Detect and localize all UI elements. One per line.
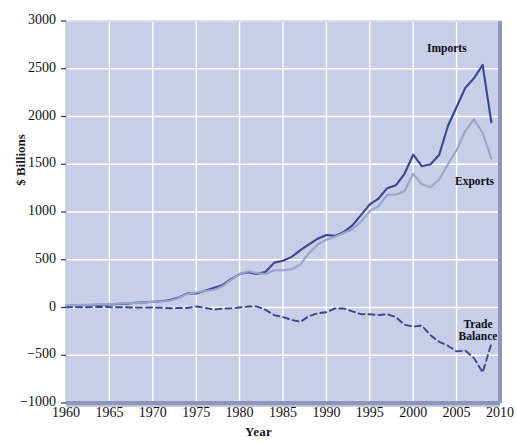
x-axis-tick-label: 1995: [348, 405, 392, 421]
x-axis-tick-label: 1970: [131, 405, 175, 421]
x-axis-tick-label: 1965: [87, 405, 131, 421]
series-label-imports: Imports: [427, 42, 467, 54]
x-axis-tick-row: 1960196519701975198019851990199520002005…: [0, 0, 517, 444]
x-axis-tick-label: 2010: [478, 405, 517, 421]
series-label-trade-balance-line2: Balance: [459, 330, 498, 342]
x-axis-tick-label: 2000: [391, 405, 435, 421]
series-label-trade-balance-line1: Trade: [463, 318, 492, 330]
y-axis-label-wrapper: $ Billions: [11, 115, 31, 205]
x-axis-tick-label: 1985: [261, 405, 305, 421]
x-axis-tick-label: 1990: [304, 405, 348, 421]
x-axis-tick-label: 2005: [435, 405, 479, 421]
series-label-exports: Exports: [455, 175, 494, 187]
x-axis-label: Year: [0, 424, 517, 440]
y-axis-label: $ Billions: [13, 134, 28, 186]
x-axis-tick-label: 1980: [218, 405, 262, 421]
x-axis-tick-label: 1960: [44, 405, 88, 421]
trade-chart-figure: 300025002000150010005000−500−1000 196019…: [0, 0, 517, 444]
series-label-trade-balance: Trade Balance: [450, 318, 506, 343]
x-axis-tick-label: 1975: [174, 405, 218, 421]
